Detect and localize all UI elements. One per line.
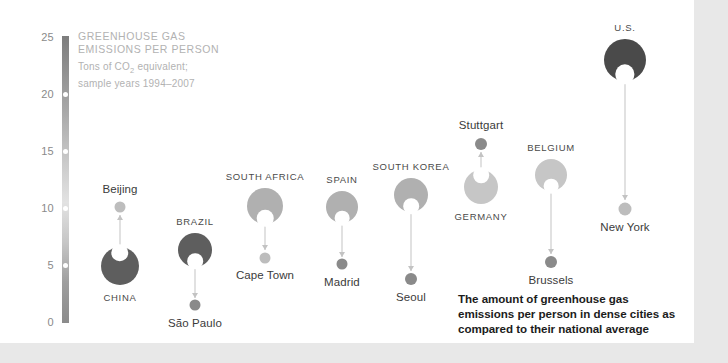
country-label: U.S.	[614, 22, 635, 33]
bubble-notch	[615, 65, 634, 84]
y-axis-tick-dot-10	[63, 206, 68, 211]
city-dot[interactable]	[115, 202, 126, 213]
country-label: BRAZIL	[176, 216, 213, 227]
arrow-down-icon	[548, 249, 554, 254]
country-label: SPAIN	[326, 174, 357, 185]
city-label: Cape Town	[236, 269, 294, 281]
arrow-up-icon	[478, 152, 484, 157]
arrow-up-icon	[117, 215, 123, 220]
city-dot[interactable]	[337, 259, 348, 270]
country-label: CHINA	[103, 292, 136, 303]
bubble-notch	[257, 210, 274, 227]
country-label: BELGIUM	[527, 142, 575, 153]
city-dot[interactable]	[619, 202, 632, 215]
chart-header: GREENHOUSE GAS EMISSIONS PER PERSON Tons…	[78, 30, 258, 90]
y-axis-tick-20: 20	[30, 88, 54, 100]
city-dot[interactable]	[190, 300, 201, 311]
connector-line	[551, 191, 552, 254]
chart-subtitle-line1: Tons of CO2 equivalent;	[78, 61, 258, 78]
bubble-notch	[335, 211, 350, 226]
city-label: São Paulo	[168, 317, 222, 329]
connector-line	[411, 212, 412, 271]
y-axis-tick-10: 10	[30, 202, 54, 214]
arrow-down-icon	[622, 195, 628, 200]
city-label: Brussels	[529, 274, 574, 286]
bubble-notch	[544, 179, 559, 194]
y-axis-tick-25: 25	[30, 31, 54, 43]
city-label: Seoul	[396, 291, 426, 303]
chart-subtitle-line2: sample years 1994–2007	[78, 78, 258, 91]
city-dot[interactable]	[475, 138, 487, 150]
city-dot[interactable]	[545, 256, 557, 268]
city-label: Beijing	[102, 183, 137, 195]
infographic-stage: 2520151050 GREENHOUSE GAS EMISSIONS PER …	[0, 0, 728, 363]
country-label: SOUTH KOREA	[373, 161, 450, 172]
y-axis-gradient-bar	[62, 36, 69, 323]
arrow-down-icon	[408, 266, 414, 271]
connector-line	[625, 81, 626, 200]
bubble-notch	[403, 198, 419, 214]
y-axis-tick-dot-20	[63, 92, 68, 97]
country-label: SOUTH AFRICA	[226, 171, 305, 182]
arrow-down-icon	[339, 252, 345, 257]
y-axis-tick-dot-15	[63, 149, 68, 154]
bubble-notch	[473, 168, 489, 184]
chart-caption: The amount of greenhouse gas emissions p…	[458, 291, 684, 337]
city-label: New York	[600, 221, 649, 233]
country-label: GERMANY	[455, 211, 508, 222]
bubble-notch	[187, 253, 203, 269]
chart-title: GREENHOUSE GAS EMISSIONS PER PERSON	[78, 30, 258, 55]
arrow-down-icon	[192, 293, 198, 298]
city-label: Stuttgart	[459, 119, 503, 131]
city-label: Madrid	[324, 276, 360, 288]
chart-subtitle: Tons of CO2 equivalent; sample years 199…	[78, 61, 258, 90]
chart-canvas: 2520151050 GREENHOUSE GAS EMISSIONS PER …	[0, 0, 694, 343]
y-axis-tick-15: 15	[30, 145, 54, 157]
arrow-down-icon	[262, 245, 268, 250]
y-axis-tick-5: 5	[30, 259, 54, 271]
y-axis-tick-0: 0	[30, 316, 54, 328]
y-axis-tick-dot-5	[63, 263, 68, 268]
city-dot[interactable]	[260, 252, 271, 263]
city-dot[interactable]	[405, 273, 417, 285]
